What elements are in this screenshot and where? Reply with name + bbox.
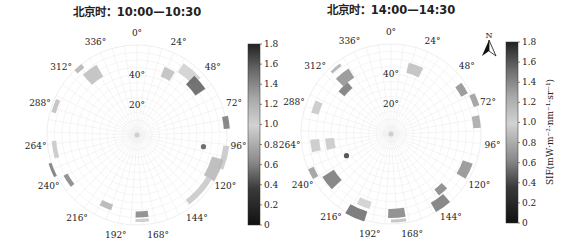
radial-tick-label: 20° (129, 100, 145, 110)
colorbar-tick-label: 1.2 (264, 99, 278, 109)
sif-segment (49, 163, 57, 177)
sif-segment (391, 218, 406, 222)
sif-segment (339, 82, 353, 96)
angular-tick-label: 312° (50, 62, 72, 72)
angular-tick-label: 120° (214, 181, 236, 191)
colorbar-left: 1.81.61.41.21.00.80.60.40.20 (248, 39, 279, 230)
sif-segment (83, 65, 103, 85)
angular-tick-label: 216° (66, 213, 88, 223)
colorbar-tick-label: 1.0 (264, 119, 279, 129)
angular-tick-label: 168° (401, 229, 423, 239)
colorbar-tick-label: 1.6 (264, 59, 279, 69)
angular-tick-label: 336° (85, 37, 107, 47)
angular-tick-label: 96° (230, 141, 246, 151)
sif-segment (135, 218, 149, 222)
colorbar-tick-label: 1.6 (522, 57, 537, 67)
colorbar-tick-label: 1.4 (522, 77, 537, 87)
north-arrow-icon: N (482, 31, 496, 56)
radial-tick-label: 20° (383, 99, 399, 109)
angular-tick-label: 240° (38, 181, 60, 191)
angular-tick-label: 216° (320, 212, 342, 222)
sif-segment (322, 170, 341, 189)
sif-segment (357, 197, 372, 209)
colorbar-tick-label: 0.2 (264, 200, 278, 210)
angular-tick-label: 0° (386, 27, 396, 37)
colorbar-ticks-left: 1.81.61.41.21.00.80.60.40.20 (260, 39, 279, 230)
sif-segment (64, 174, 75, 187)
colorbar-tick-label: 1.2 (522, 97, 536, 107)
chart-title-left: 北京时：10:00—10:30 (73, 5, 202, 19)
observation-marker (201, 144, 206, 149)
colorbar-tick-label: 0.6 (522, 158, 537, 168)
colorbar-tick-label: 0.6 (264, 160, 279, 170)
sif-segment (469, 93, 479, 107)
sif-segment (100, 200, 113, 210)
angular-tick-label: 0° (132, 28, 142, 38)
north-label: N (486, 31, 493, 40)
angular-tick-label: 288° (283, 97, 305, 107)
angular-tick-label: 312° (304, 61, 326, 71)
angular-tick-label: 336° (339, 36, 361, 46)
colorbar-tick-label: 1.4 (264, 79, 279, 89)
angular-tick-label: 192° (359, 229, 381, 239)
sif-segment (310, 139, 321, 152)
angular-tick-label: 72° (226, 98, 242, 108)
sif-segments-right (308, 63, 481, 223)
angular-tick-label: 48° (459, 61, 475, 71)
angular-tick-label: 264° (25, 141, 47, 151)
angular-tick-label: 192° (105, 230, 127, 240)
colorbar-tick-label: 1.8 (264, 39, 279, 49)
radial-tick-label: 40° (383, 69, 399, 79)
colorbar-tick-label: 0.4 (264, 180, 279, 190)
angular-tick-label: 144° (186, 213, 208, 223)
sif-segment (311, 100, 322, 114)
sif-segment (325, 138, 336, 150)
angular-tick-label: 264° (279, 140, 301, 150)
sif-segment (136, 211, 149, 218)
angular-tick-label: 240° (292, 180, 314, 190)
colorbar-gradient-left (248, 44, 260, 225)
colorbar-tick-label: 1.0 (522, 117, 537, 127)
sif-segment (388, 208, 406, 218)
colorbar-gradient-right (506, 42, 518, 223)
angular-tick-label: 48° (205, 62, 221, 72)
angular-tick-label: 168° (147, 230, 169, 240)
colorbar-tick-label: 0.8 (522, 138, 537, 148)
colorbar-tick-label: 1.8 (522, 37, 537, 47)
angular-tick-label: 24° (171, 37, 187, 47)
colorbar-right: 1.81.61.41.21.00.80.60.40.20 SIF(mW·m⁻²·… (506, 37, 555, 228)
polar-chart-right: 北京时：14:00—14:30 0°24°48°72°96°120°144°16… (279, 3, 501, 239)
colorbar-ticks-right: 1.81.61.41.21.00.80.60.40.20 (518, 37, 537, 228)
chart-title-right: 北京时：14:00—14:30 (327, 3, 456, 17)
colorbar-tick-label: 0 (522, 218, 528, 228)
colorbar-tick-label: 0.2 (522, 198, 536, 208)
angular-tick-label: 120° (468, 180, 490, 190)
observation-marker (344, 153, 349, 158)
sif-segment (52, 99, 61, 113)
polar-chart-left: 北京时：10:00—10:30 0°24°48°72°96°120°144°16… (25, 5, 247, 240)
angular-tick-label: 72° (480, 97, 496, 107)
angular-tick-label: 288° (29, 98, 51, 108)
colorbar-tick-label: 0 (264, 220, 270, 230)
colorbar-tick-label: 0.4 (522, 178, 537, 188)
angular-tick-label: 96° (484, 140, 500, 150)
figure: 北京时：10:00—10:30 0°24°48°72°96°120°144°16… (0, 0, 578, 245)
colorbar-axis-label: SIF(mW·m⁻²·nm⁻¹·sr⁻¹) (545, 79, 555, 185)
angular-tick-label: 144° (440, 212, 462, 222)
sif-segment (222, 116, 230, 129)
colorbar-tick-label: 0.8 (264, 140, 279, 150)
radial-tick-label: 40° (129, 70, 145, 80)
angular-tick-label: 24° (425, 36, 441, 46)
